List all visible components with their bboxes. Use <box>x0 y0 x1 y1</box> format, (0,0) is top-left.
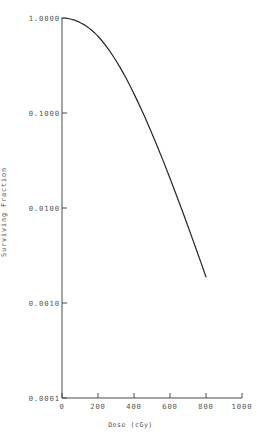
x-tick-label: 0 <box>59 402 64 411</box>
x-tick-label: 200 <box>90 402 106 411</box>
y-tick-label: 0.0100 <box>29 204 60 213</box>
y-axis-ticks <box>62 113 67 398</box>
survival-curve <box>62 18 206 277</box>
y-tick-label: 0.0001 <box>29 394 60 403</box>
y-axis-title: Surviving Fraction <box>0 167 8 257</box>
x-tick-label: 800 <box>198 402 214 411</box>
y-tick-label: 0.1000 <box>29 109 60 118</box>
y-tick-label: 1.0000 <box>29 14 60 23</box>
x-axis-ticks <box>62 393 242 398</box>
cell-survival-curve-chart: 1.00000.10000.01000.00100.0001 020040060… <box>0 0 261 441</box>
x-axis-title: Dose (cGy) <box>0 421 261 429</box>
y-tick-label: 0.0010 <box>29 299 60 308</box>
plot-area <box>0 0 261 441</box>
x-tick-label: 1000 <box>232 402 253 411</box>
x-tick-label: 600 <box>162 402 178 411</box>
x-tick-label: 400 <box>126 402 142 411</box>
